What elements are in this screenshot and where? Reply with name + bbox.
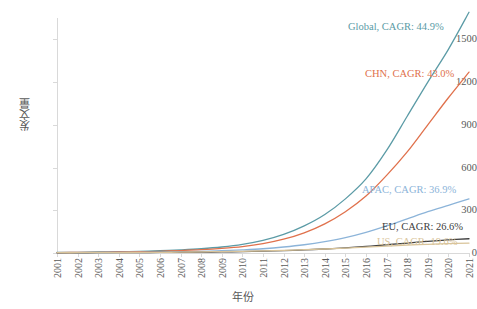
x-tick-mark [160, 253, 161, 257]
x-tick-mark [242, 253, 243, 257]
x-tick-label: 2004 [114, 258, 125, 278]
x-tick-mark [222, 253, 223, 257]
x-tick-label: 2003 [93, 258, 104, 278]
x-tick-mark [325, 253, 326, 257]
x-tick-mark [78, 253, 79, 257]
x-tick-label: 2009 [217, 258, 228, 278]
x-tick-mark [304, 253, 305, 257]
series-label-chn: CHN, CAGR: 43.0% [365, 68, 454, 79]
x-tick-label: 2021 [464, 258, 475, 278]
x-tick-label: 2005 [134, 258, 145, 278]
x-tick-label: 2010 [237, 258, 248, 278]
x-tick-mark [181, 253, 182, 257]
x-tick-label: 2014 [320, 258, 331, 278]
x-tick-label: 2020 [443, 258, 454, 278]
x-tick-label: 2011 [258, 258, 269, 278]
x-tick-label: 2019 [423, 258, 434, 278]
x-tick-label: 2002 [73, 258, 84, 278]
x-tick-mark [98, 253, 99, 257]
x-tick-mark [119, 253, 120, 257]
x-tick-mark [345, 253, 346, 257]
series-label-apac: APAC, CAGR: 36.9% [362, 184, 456, 195]
x-tick-mark [387, 253, 388, 257]
x-tick-mark [284, 253, 285, 257]
x-axis-title: 年份 [232, 288, 254, 304]
y-axis-title: 发文量 [18, 98, 34, 131]
x-tick-label: 2017 [382, 258, 393, 278]
publications-trend-chart: 发文量 年份 030060090012001500 20012002200320… [0, 0, 477, 309]
x-tick-mark [139, 253, 140, 257]
x-tick-label: 2006 [155, 258, 166, 278]
series-label-global: Global, CAGR: 44.9% [348, 21, 444, 32]
x-tick-mark [57, 253, 58, 257]
x-tick-label: 2018 [402, 258, 413, 278]
x-tick-label: 2012 [279, 258, 290, 278]
x-tick-label: 2015 [340, 258, 351, 278]
x-tick-label: 2013 [299, 258, 310, 278]
plot-area [57, 18, 469, 253]
x-tick-label: 2007 [176, 258, 187, 278]
series-lines [57, 18, 469, 253]
x-tick-label: 2001 [52, 258, 63, 278]
x-tick-label: 2016 [361, 258, 372, 278]
x-tick-mark [263, 253, 264, 257]
x-tick-mark [469, 253, 470, 257]
series-label-eu: EU, CAGR: 26.6% [382, 221, 463, 232]
x-tick-mark [428, 253, 429, 257]
x-tick-label: 2008 [196, 258, 207, 278]
series-label-us: US, CAGR: 19.6% [377, 236, 458, 247]
x-tick-mark [448, 253, 449, 257]
x-tick-mark [201, 253, 202, 257]
x-tick-mark [407, 253, 408, 257]
x-tick-mark [366, 253, 367, 257]
series-line-global [57, 12, 469, 252]
